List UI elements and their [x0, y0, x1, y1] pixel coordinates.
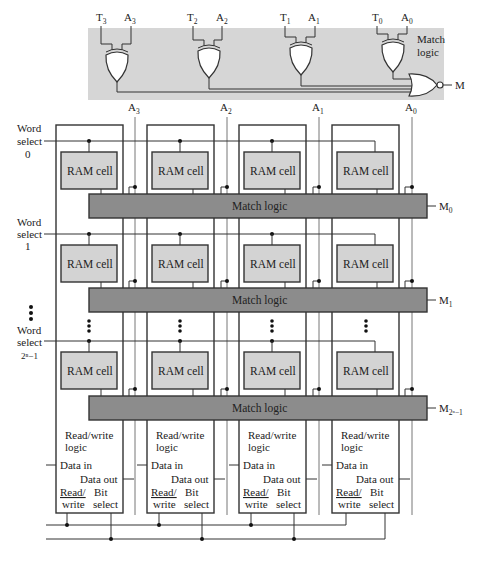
- svg-text:Read/: Read/: [151, 486, 178, 498]
- output-m-label: M: [455, 79, 465, 91]
- panel-title-line1: Match: [417, 33, 446, 45]
- addr-a3-label: A3: [128, 101, 140, 116]
- svg-text:select: select: [276, 498, 301, 510]
- svg-text:Data out: Data out: [171, 473, 209, 485]
- svg-text:M0: M0: [439, 200, 453, 215]
- input-t1-label: T1: [280, 11, 291, 26]
- svg-text:write: write: [245, 498, 268, 510]
- input-a2-label: A2: [216, 11, 228, 26]
- svg-text:RAM cell: RAM cell: [343, 258, 389, 270]
- svg-text:select: select: [369, 498, 394, 510]
- svg-text:logic: logic: [248, 441, 270, 453]
- svg-text:select: select: [93, 498, 118, 510]
- svg-text:Bit: Bit: [94, 486, 107, 498]
- svg-text:RAM cell: RAM cell: [250, 258, 296, 270]
- input-t2-label: T2: [187, 11, 198, 26]
- svg-text:RAM cell: RAM cell: [158, 365, 204, 377]
- svg-text:1: 1: [25, 240, 31, 252]
- svg-text:Read/write: Read/write: [156, 429, 204, 441]
- input-a3-label: A3: [124, 11, 136, 26]
- match-logic-row-0: Match logic M0: [89, 194, 453, 218]
- svg-text:logic: logic: [156, 441, 178, 453]
- svg-text:Read/: Read/: [336, 486, 363, 498]
- rw-logic-col-0: Read/write logic Data in Data out Read/ …: [322, 429, 410, 510]
- svg-text:RAM cell: RAM cell: [250, 365, 296, 377]
- control-bus: [46, 513, 385, 541]
- svg-text:Read/write: Read/write: [341, 429, 389, 441]
- svg-text:2ⁿ−1: 2ⁿ−1: [21, 351, 38, 361]
- cam-diagram: Match logic T3 A3 T2 A2 T1 A1 T0 A0: [0, 0, 482, 564]
- addr-a0-label: A0: [405, 101, 417, 116]
- ram-row-1: RAM cell RAM cell RAM cell RAM cell: [61, 232, 414, 288]
- svg-text:0: 0: [25, 148, 31, 160]
- svg-text:select: select: [17, 336, 42, 348]
- match-logic-detail: Match logic T3 A3 T2 A2 T1 A1 T0 A0: [88, 11, 465, 100]
- svg-text:Match logic: Match logic: [232, 200, 287, 213]
- svg-text:Word: Word: [17, 216, 42, 228]
- svg-text:RAM cell: RAM cell: [158, 165, 204, 177]
- svg-text:Bit: Bit: [370, 486, 383, 498]
- svg-text:RAM cell: RAM cell: [67, 258, 113, 270]
- panel-title-line2: logic: [417, 46, 439, 58]
- svg-text:select: select: [184, 498, 209, 510]
- ellipsis-columns: [87, 319, 368, 333]
- svg-text:RAM cell: RAM cell: [343, 165, 389, 177]
- ram-row-0: RAM cell RAM cell RAM cell RAM cell: [61, 139, 414, 194]
- svg-text:select: select: [17, 228, 42, 240]
- svg-text:logic: logic: [65, 441, 87, 453]
- svg-text:Data in: Data in: [60, 459, 93, 471]
- svg-text:Data out: Data out: [356, 473, 394, 485]
- addr-a1-label: A1: [312, 101, 324, 116]
- rw-logic-col-2: Read/write logic Data in Data out Read/ …: [137, 429, 225, 510]
- svg-text:M2ⁿ−1: M2ⁿ−1: [439, 402, 463, 417]
- svg-text:RAM cell: RAM cell: [67, 365, 113, 377]
- svg-text:Bit: Bit: [277, 486, 290, 498]
- input-t0-label: T0: [372, 11, 383, 26]
- ellipsis-left: [29, 305, 33, 321]
- svg-text:Match logic: Match logic: [232, 402, 287, 415]
- svg-text:RAM cell: RAM cell: [250, 165, 296, 177]
- svg-text:Data out: Data out: [80, 473, 118, 485]
- svg-text:write: write: [338, 498, 361, 510]
- ram-row-last: RAM cell RAM cell RAM cell RAM cell: [61, 339, 414, 396]
- input-a0-label: A0: [401, 11, 413, 26]
- svg-text:Data in: Data in: [151, 459, 184, 471]
- svg-text:select: select: [17, 135, 42, 147]
- svg-text:Data in: Data in: [336, 459, 369, 471]
- svg-text:Data out: Data out: [263, 473, 301, 485]
- svg-text:write: write: [153, 498, 176, 510]
- input-a1-label: A1: [308, 11, 320, 26]
- svg-text:Bit: Bit: [185, 486, 198, 498]
- svg-text:Read/write: Read/write: [248, 429, 296, 441]
- input-t3-label: T3: [96, 11, 107, 26]
- svg-text:Read/: Read/: [60, 486, 87, 498]
- svg-text:Data in: Data in: [243, 459, 276, 471]
- addr-a2-label: A2: [220, 101, 232, 116]
- rw-logic-col-3: Read/write logic Data in Data out Read/ …: [46, 429, 134, 510]
- svg-text:Match logic: Match logic: [232, 294, 287, 307]
- svg-text:write: write: [62, 498, 85, 510]
- match-logic-row-1: Match logic M1: [89, 288, 453, 312]
- svg-text:Read/: Read/: [243, 486, 270, 498]
- svg-text:RAM cell: RAM cell: [158, 258, 204, 270]
- match-logic-row-last: Match logic M2ⁿ−1: [89, 396, 463, 420]
- svg-text:Word: Word: [17, 122, 42, 134]
- svg-text:Read/write: Read/write: [65, 429, 113, 441]
- svg-text:RAM cell: RAM cell: [343, 365, 389, 377]
- svg-text:RAM cell: RAM cell: [67, 165, 113, 177]
- svg-text:M1: M1: [439, 294, 453, 309]
- svg-text:Word: Word: [17, 324, 42, 336]
- svg-text:logic: logic: [341, 441, 363, 453]
- rw-logic-col-1: Read/write logic Data in Data out Read/ …: [229, 429, 317, 510]
